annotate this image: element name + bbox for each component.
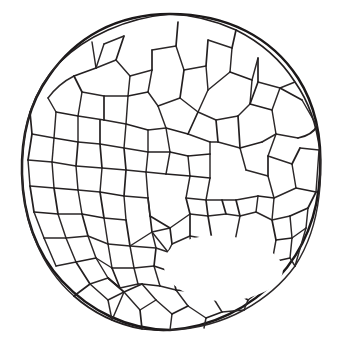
cross-section-drawing [0,0,337,349]
figure-container [0,0,337,349]
